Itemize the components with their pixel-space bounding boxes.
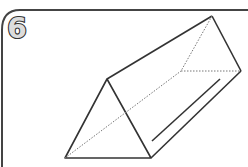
card-border [2, 10, 248, 167]
problem-number-badge: 6 [4, 13, 30, 43]
prism [65, 16, 241, 158]
diagram-canvas [0, 0, 248, 167]
back-right-edge [212, 16, 241, 71]
hidden-back-left-edge [181, 16, 212, 71]
inner-line [152, 79, 220, 141]
hidden-edges [65, 16, 241, 158]
top-edge [107, 16, 212, 79]
front-triangle-face [65, 79, 151, 158]
svg-text:6: 6 [7, 13, 26, 43]
bottom-right-edge [151, 71, 241, 158]
